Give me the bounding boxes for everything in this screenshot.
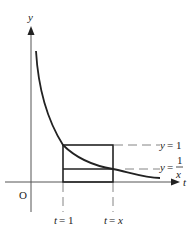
svg-text:=: = xyxy=(167,161,173,173)
svg-text:x: x xyxy=(117,214,123,226)
y-axis-label: y xyxy=(27,11,33,23)
label-y-equals-1-over-x: y = 1 x xyxy=(159,154,183,180)
label-t-equals-x: t = x xyxy=(104,214,123,226)
svg-text:1: 1 xyxy=(68,214,74,226)
y-axis-arrow-icon xyxy=(28,26,35,35)
svg-text:1: 1 xyxy=(177,154,183,166)
svg-text:=: = xyxy=(109,214,115,226)
svg-text:1: 1 xyxy=(176,139,182,151)
x-axis-label: t xyxy=(183,176,187,188)
svg-text:=: = xyxy=(167,139,173,151)
svg-text:y: y xyxy=(159,139,165,151)
svg-text:=: = xyxy=(59,214,65,226)
svg-text:y: y xyxy=(159,161,165,173)
dashed-guides xyxy=(63,145,160,212)
label-t-equals-1: t = 1 xyxy=(54,214,74,226)
diagram-figure: y t O y = 1 y = xyxy=(0,0,193,241)
svg-text:t: t xyxy=(54,214,58,226)
origin-label: O xyxy=(19,189,27,201)
curve-1-over-t xyxy=(36,51,160,178)
svg-text:t: t xyxy=(104,214,108,226)
svg-text:x: x xyxy=(175,168,181,180)
label-y-equals-1: y = 1 xyxy=(159,139,182,151)
x-axis: t O xyxy=(5,176,187,201)
